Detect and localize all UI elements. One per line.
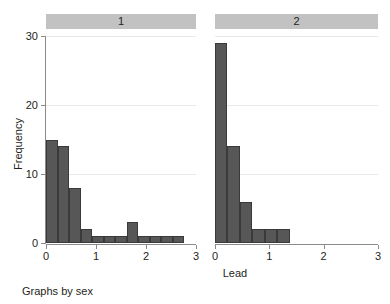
histogram-bar xyxy=(127,222,139,243)
panel-2-bars xyxy=(215,36,378,243)
histogram-bar xyxy=(173,236,185,243)
histogram-bar xyxy=(240,202,252,243)
panel-header-1: 1 xyxy=(46,14,196,29)
y-axis-tick xyxy=(41,36,45,37)
histogram-bar xyxy=(92,236,104,243)
y-axis-tick-label: 0 xyxy=(6,238,38,249)
x-axis-tick-label: 1 xyxy=(86,251,106,262)
histogram-bar xyxy=(215,43,227,243)
x-axis-tick-label: 3 xyxy=(368,251,388,262)
panel-header-2-label: 2 xyxy=(293,16,299,27)
histogram-bar xyxy=(227,146,239,243)
panel-1-bars xyxy=(46,36,196,243)
y-axis-tick xyxy=(41,243,45,244)
y-axis-line xyxy=(45,36,46,244)
x-axis-tick-label: 0 xyxy=(36,251,56,262)
y-axis-tick xyxy=(41,174,45,175)
panel-header-2: 2 xyxy=(215,14,378,29)
y-axis-tick-label: 20 xyxy=(6,100,38,111)
histogram-bar xyxy=(161,236,173,243)
x-axis-tick xyxy=(146,245,147,249)
panel-header-1-label: 1 xyxy=(118,16,124,27)
histogram-bar xyxy=(265,229,277,243)
histogram-bar xyxy=(46,140,58,244)
histogram-bar xyxy=(277,229,289,243)
x-axis-tick xyxy=(215,245,216,249)
figure-note: Graphs by sex xyxy=(22,285,93,297)
x-axis-tick xyxy=(196,245,197,249)
x-axis-tick-label: 2 xyxy=(314,251,334,262)
x-axis-tick-label: 2 xyxy=(136,251,156,262)
y-axis-tick-label: 30 xyxy=(6,31,38,42)
x-axis-tick-label: 3 xyxy=(186,251,206,262)
histogram-bar xyxy=(115,236,127,243)
histogram-figure: Frequency 0102030 1 0123 2 0123 Lead Gra… xyxy=(0,0,390,304)
x-axis-line xyxy=(215,244,378,245)
histogram-bar xyxy=(252,229,264,243)
x-axis-tick-label: 0 xyxy=(205,251,225,262)
y-axis-tick xyxy=(41,105,45,106)
histogram-bar xyxy=(150,236,162,243)
histogram-bar xyxy=(58,146,70,243)
x-axis-tick xyxy=(324,245,325,249)
y-axis-tick-label: 10 xyxy=(6,169,38,180)
histogram-bar xyxy=(104,236,116,243)
histogram-bar xyxy=(81,229,93,243)
panel-2-plot-area xyxy=(215,36,378,243)
histogram-bar xyxy=(138,236,150,243)
histogram-bar xyxy=(69,188,81,243)
x-axis-title: Lead xyxy=(175,267,295,279)
panel-1-plot-area xyxy=(46,36,196,243)
x-axis-tick xyxy=(46,245,47,249)
x-axis-tick xyxy=(378,245,379,249)
x-axis-tick xyxy=(269,245,270,249)
x-axis-line xyxy=(46,244,196,245)
x-axis-tick-label: 1 xyxy=(259,251,279,262)
y-axis-title: Frequency xyxy=(12,118,24,170)
x-axis-tick xyxy=(96,245,97,249)
